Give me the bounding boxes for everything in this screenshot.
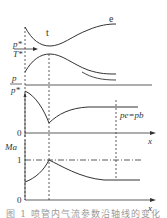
nozzle-upper-wall <box>25 24 116 46</box>
mach-x-axis-arrow <box>150 198 156 202</box>
pressure-ylabel-numerator: p <box>11 73 17 83</box>
pressure-xlabel: x <box>147 136 152 146</box>
pressure-upper-curve <box>82 72 116 80</box>
inlet-arrow-head <box>33 47 38 51</box>
inlet-label-numerator: p* <box>12 39 23 49</box>
pressure-zero-label: 0 <box>17 128 22 138</box>
pressure-x-axis-arrow <box>150 131 156 135</box>
pressure-ylabel-denominator: p* <box>10 85 21 95</box>
exit-condition-label: pe=pb <box>119 110 144 120</box>
mach-curve <box>25 160 140 182</box>
exit-label: e <box>109 13 114 24</box>
nozzle-lower-wall <box>25 54 116 74</box>
throat-label: t <box>46 27 49 38</box>
mach-zero-label: 0 <box>17 195 22 205</box>
pressure-y-axis-arrow <box>24 92 27 97</box>
figure-caption: 图 1 喷管内气流参数沿轴线的变化 <box>0 207 167 218</box>
mach-ylabel: Ma <box>4 142 17 152</box>
inlet-label-denominator: T* <box>13 49 23 59</box>
nozzle-diagram: t e p* T* p p* 0 x pe=pb Ma 1 0 x <box>0 0 167 218</box>
mach-tick-one: 1 <box>17 155 22 165</box>
